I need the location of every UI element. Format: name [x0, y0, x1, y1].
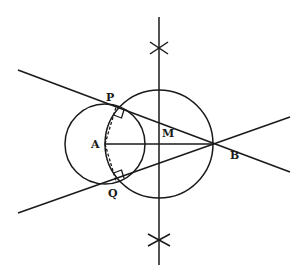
- radius-ap-dashed: [105, 107, 116, 144]
- label-a: A: [90, 138, 100, 151]
- radius-aq-dashed: [105, 144, 116, 181]
- tangent-line-bq: [18, 117, 290, 213]
- right-angle-mark-p: [114, 110, 124, 118]
- tangent-line-bp: [18, 70, 290, 172]
- label-m: M: [162, 127, 174, 140]
- label-b: B: [230, 149, 239, 162]
- label-q: Q: [108, 187, 118, 200]
- label-p: P: [106, 91, 114, 104]
- geometry-diagram: P A M B Q: [0, 0, 304, 280]
